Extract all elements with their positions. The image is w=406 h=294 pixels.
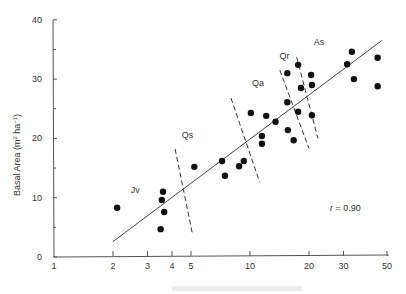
zone-label: Jv — [131, 185, 141, 195]
axes — [53, 20, 389, 257]
data-point — [309, 112, 315, 118]
data-point — [374, 55, 380, 61]
data-point — [263, 113, 269, 119]
x-tick-label: 50 — [382, 261, 392, 271]
zone-boundaries — [175, 57, 318, 235]
data-point — [284, 99, 290, 105]
data-point — [295, 109, 301, 115]
data-point — [374, 83, 380, 89]
zone-label: As — [314, 37, 325, 47]
data-point — [259, 141, 265, 147]
x-tick-label: 2 — [110, 261, 115, 271]
zone-labels: JvQsQaQrAs — [131, 37, 325, 195]
data-point — [248, 110, 254, 116]
data-point — [114, 205, 120, 211]
data-point — [236, 163, 242, 169]
x-tick-label: 3 — [145, 261, 150, 271]
data-point — [295, 62, 301, 68]
scatter-chart: 010203040 1234510203050 Basal Area (m2 h… — [0, 0, 406, 294]
data-point — [309, 82, 315, 88]
data-point — [298, 85, 304, 91]
data-point — [222, 173, 228, 179]
data-point — [351, 76, 357, 82]
y-tick-label: 0 — [37, 252, 42, 262]
y-tick-label: 40 — [32, 15, 42, 25]
data-point — [290, 137, 296, 143]
x-tick-label: 20 — [304, 261, 314, 271]
x-axis — [54, 255, 389, 257]
data-point — [272, 119, 278, 125]
x-tick-label: 5 — [188, 261, 193, 271]
y-tick-label: 30 — [32, 74, 42, 84]
y-axis-title: Basal Area (m2 ha−1) — [12, 114, 22, 196]
data-point — [284, 70, 290, 76]
zone-boundary-line — [231, 98, 260, 182]
data-point — [349, 49, 355, 55]
data-point — [219, 158, 225, 164]
y-tick-labels: 010203040 — [32, 15, 42, 262]
x-axis-title-faint — [172, 286, 302, 291]
data-point — [259, 133, 265, 139]
data-point — [241, 158, 247, 164]
data-point — [161, 209, 167, 215]
zone-boundary-line — [280, 70, 309, 148]
data-point — [285, 127, 291, 133]
x-tick-label: 10 — [245, 261, 255, 271]
data-point — [344, 61, 350, 67]
zone-boundary-line — [175, 149, 193, 235]
zone-label: Qs — [182, 130, 194, 140]
data-point — [159, 197, 165, 203]
x-tick-label: 30 — [339, 261, 349, 271]
data-point — [160, 189, 166, 195]
data-point — [308, 72, 314, 78]
x-tick-label: 4 — [169, 261, 174, 271]
zone-boundary-line — [297, 57, 318, 138]
x-tick-label: 1 — [51, 261, 56, 271]
y-tick-label: 20 — [32, 133, 42, 143]
data-point — [157, 226, 163, 232]
data-point — [191, 164, 197, 170]
x-tick-labels: 1234510203050 — [51, 261, 392, 271]
zone-label: Qr — [280, 51, 290, 61]
correlation-annotation: r = 0.90 — [330, 203, 361, 213]
zone-label: Qa — [252, 78, 264, 88]
y-tick-label: 10 — [32, 193, 42, 203]
